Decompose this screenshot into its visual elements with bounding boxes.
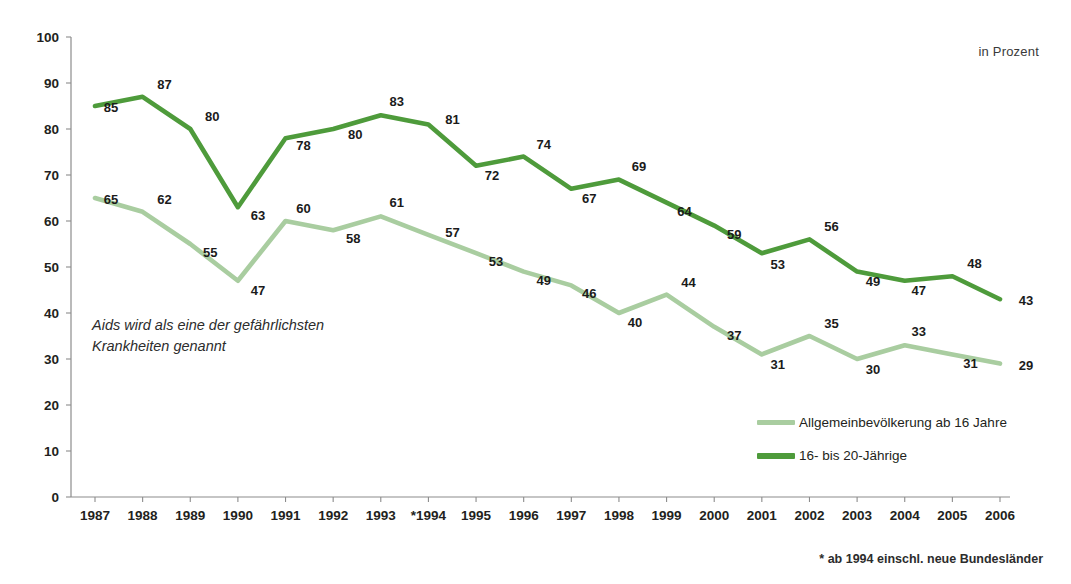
data-point-label: 33 xyxy=(911,324,925,339)
x-axis-tick-label: 1992 xyxy=(318,508,348,523)
legend-label-general-population: Allgemeinbevölkerung ab 16 Jahre xyxy=(799,415,1007,430)
data-point-label: 60 xyxy=(296,201,310,216)
y-axis-tick-label: 80 xyxy=(44,122,59,137)
y-axis-tick-label: 90 xyxy=(44,76,59,91)
series-line-youth xyxy=(95,97,1000,299)
data-point-label: 55 xyxy=(203,245,217,260)
data-point-label: 47 xyxy=(911,283,925,298)
data-point-label: 46 xyxy=(582,286,596,301)
data-point-label: 62 xyxy=(157,192,171,207)
data-point-label: 29 xyxy=(1019,358,1033,373)
data-point-label: 58 xyxy=(346,231,360,246)
legend-swatch-youth xyxy=(757,453,795,459)
line-chart: 0102030405060708090100198719881989199019… xyxy=(0,0,1071,584)
data-point-label: 53 xyxy=(489,254,503,269)
data-point-label: 80 xyxy=(205,109,219,124)
y-axis-tick-label: 60 xyxy=(44,214,59,229)
x-axis-tick-label: 1997 xyxy=(556,508,586,523)
x-axis-tick-label: 2002 xyxy=(794,508,824,523)
data-point-label: 59 xyxy=(727,227,741,242)
y-axis-tick-label: 70 xyxy=(44,168,59,183)
x-axis-tick-label: 2005 xyxy=(937,508,968,523)
legend-swatch-general-population xyxy=(757,420,795,425)
x-axis-tick-label: 1989 xyxy=(175,508,205,523)
data-point-label: 40 xyxy=(628,315,642,330)
x-axis-tick-label: 2004 xyxy=(890,508,921,523)
data-point-label: 47 xyxy=(251,283,265,298)
y-axis-tick-label: 10 xyxy=(44,444,59,459)
data-point-label: 85 xyxy=(104,100,118,115)
data-point-label: 61 xyxy=(390,195,404,210)
unit-label: in Prozent xyxy=(978,44,1039,59)
data-point-label: 57 xyxy=(445,225,459,240)
data-point-label: 87 xyxy=(157,77,171,92)
x-axis-tick-label: 1993 xyxy=(366,508,397,523)
data-point-label: 37 xyxy=(727,328,741,343)
x-axis-tick-label: 1991 xyxy=(271,508,302,523)
data-point-label: 63 xyxy=(251,208,265,223)
data-point-label: 67 xyxy=(582,191,596,206)
data-point-label: 69 xyxy=(632,159,646,174)
data-point-label: 49 xyxy=(866,274,880,289)
data-point-label: 35 xyxy=(824,316,838,331)
data-point-label: 81 xyxy=(445,112,459,127)
y-axis-tick-label: 50 xyxy=(44,260,59,275)
x-axis-tick-label: 1995 xyxy=(461,508,492,523)
data-point-label: 74 xyxy=(536,137,551,152)
chart-footnote: * ab 1994 einschl. neue Bundesländer xyxy=(819,552,1043,566)
data-point-label: 80 xyxy=(348,127,362,142)
data-point-label: 44 xyxy=(681,275,696,290)
data-point-label: 65 xyxy=(104,192,118,207)
x-axis-tick-label: 1988 xyxy=(128,508,159,523)
data-point-label: 72 xyxy=(485,168,499,183)
y-axis-tick-label: 20 xyxy=(44,398,59,413)
y-axis-tick-label: 0 xyxy=(51,490,59,505)
data-point-label: 53 xyxy=(771,257,785,272)
x-axis-tick-label: 1987 xyxy=(80,508,110,523)
chart-container: 0102030405060708090100198719881989199019… xyxy=(0,0,1071,584)
annotation-line-1: Aids wird als eine der gefährlichsten xyxy=(92,315,324,336)
y-axis-tick-label: 30 xyxy=(44,352,59,367)
data-point-label: 49 xyxy=(536,273,550,288)
data-point-label: 31 xyxy=(771,357,785,372)
x-axis-tick-label: 2001 xyxy=(747,508,778,523)
data-point-label: 48 xyxy=(967,256,981,271)
chart-legend: Allgemeinbevölkerung ab 16 Jahre 16- bis… xyxy=(757,415,1007,463)
data-point-label: 83 xyxy=(390,94,404,109)
x-axis-tick-label: 1990 xyxy=(223,508,253,523)
data-point-label: 56 xyxy=(824,219,838,234)
x-axis-tick-label: 2003 xyxy=(842,508,873,523)
legend-label-youth: 16- bis 20-Jährige xyxy=(799,448,907,463)
data-point-label: 31 xyxy=(963,356,977,371)
data-point-label: 78 xyxy=(296,138,310,153)
x-axis-tick-label: 2000 xyxy=(699,508,729,523)
x-axis-tick-label: 1998 xyxy=(604,508,635,523)
data-point-label: 64 xyxy=(677,204,692,219)
x-axis-tick-label: 1996 xyxy=(509,508,540,523)
legend-item-youth: 16- bis 20-Jährige xyxy=(757,448,1007,463)
x-axis-tick-label: *1994 xyxy=(411,508,447,523)
y-axis-tick-label: 40 xyxy=(44,306,59,321)
data-point-label: 43 xyxy=(1019,293,1033,308)
y-axis-tick-label: 100 xyxy=(36,30,59,45)
x-axis-tick-label: 1999 xyxy=(652,508,682,523)
data-point-label: 30 xyxy=(866,362,880,377)
chart-annotation: Aids wird als eine der gefährlichsten Kr… xyxy=(92,315,324,357)
legend-item-general-population: Allgemeinbevölkerung ab 16 Jahre xyxy=(757,415,1007,430)
x-axis-tick-label: 2006 xyxy=(985,508,1016,523)
annotation-line-2: Krankheiten genannt xyxy=(92,336,324,357)
